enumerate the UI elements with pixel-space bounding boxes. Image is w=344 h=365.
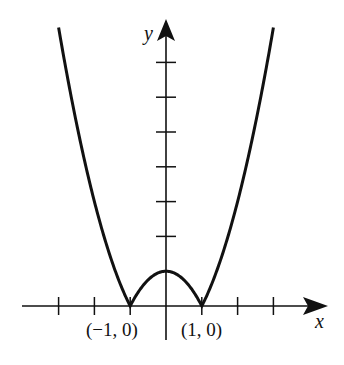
point-label-one: (1, 0) bbox=[181, 319, 222, 341]
axes bbox=[22, 19, 328, 340]
point-label-minus-one: (−1, 0) bbox=[86, 319, 138, 341]
y-axis-label: y bbox=[142, 22, 153, 45]
x-axis-label: x bbox=[314, 310, 324, 332]
function-plot: y x (−1, 0) (1, 0) bbox=[0, 0, 344, 365]
